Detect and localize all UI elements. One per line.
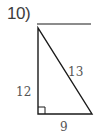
right-triangle-figure (0, 0, 102, 140)
side-label-horizontal-leg: 9 (60, 121, 68, 133)
side-label-vertical-leg: 12 (16, 86, 31, 98)
right-angle-marker-icon (38, 107, 45, 114)
triangle-shape (38, 28, 92, 114)
side-label-hypotenuse: 13 (68, 66, 83, 78)
